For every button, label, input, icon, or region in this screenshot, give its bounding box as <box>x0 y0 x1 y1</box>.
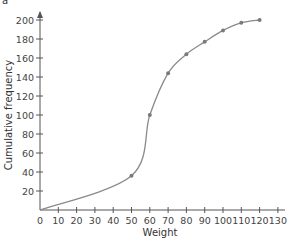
axes <box>37 11 285 210</box>
data-point-marker <box>184 52 188 56</box>
data-point-marker <box>239 21 243 25</box>
y-tick-label: 60 <box>22 148 34 159</box>
x-tick-label: 20 <box>71 215 83 226</box>
x-tick-label: 60 <box>144 215 156 226</box>
y-tick-label: 40 <box>22 167 34 178</box>
x-tick-label: 30 <box>89 215 101 226</box>
x-tick-label: 130 <box>269 215 287 226</box>
y-axis-arrow-icon <box>37 11 43 18</box>
data-point-marker <box>130 174 134 178</box>
x-tick-label: 80 <box>180 215 192 226</box>
y-tick-label: 140 <box>16 72 34 83</box>
y-tick-label: 80 <box>22 129 34 140</box>
cumulative-frequency-chart: a 20406080100120140160180200 01020304050… <box>0 0 288 243</box>
x-tick-label: 40 <box>107 215 119 226</box>
y-tick-label: 120 <box>16 91 34 102</box>
x-tick-label: 0 <box>37 215 43 226</box>
x-tick-label: 70 <box>162 215 174 226</box>
x-tick-label: 120 <box>251 215 269 226</box>
data-point-marker <box>221 28 225 32</box>
data-point-marker <box>148 113 152 117</box>
data-points <box>130 18 262 178</box>
y-tick-label: 160 <box>16 53 34 64</box>
data-point-marker <box>258 18 262 22</box>
x-axis-title: Weight <box>143 227 178 238</box>
x-tick-label: 50 <box>125 215 137 226</box>
y-axis-ticks: 20406080100120140160180200 <box>16 15 43 197</box>
data-point-marker <box>166 71 170 75</box>
y-tick-label: 100 <box>16 110 34 121</box>
y-tick-label: 180 <box>16 34 34 45</box>
x-tick-label: 110 <box>232 215 250 226</box>
y-tick-label: 20 <box>22 186 34 197</box>
x-tick-label: 10 <box>52 215 64 226</box>
x-tick-label: 90 <box>199 215 211 226</box>
data-point-marker <box>203 40 207 44</box>
y-axis-title: Cumulative frequency <box>3 60 14 170</box>
corner-label: a <box>2 0 8 6</box>
y-tick-label: 200 <box>16 15 34 26</box>
x-tick-label: 100 <box>214 215 232 226</box>
